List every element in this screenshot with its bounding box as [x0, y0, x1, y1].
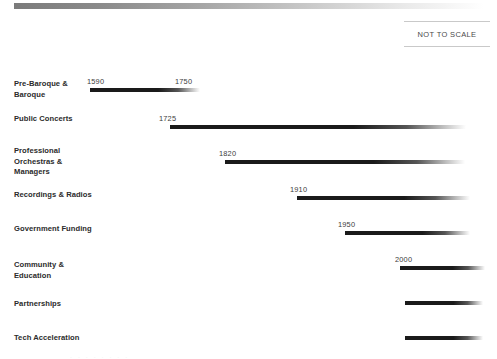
- timeline-row: Recordings & Radios1910: [0, 190, 497, 224]
- timeline-row: Community & Education2000: [0, 260, 497, 294]
- timeline-bar: [170, 125, 466, 129]
- timeline-bar: [225, 160, 465, 164]
- timeline-bar: [297, 196, 470, 200]
- start-year-label: 1725: [159, 114, 176, 123]
- timeline-row: Public Concerts1725: [0, 114, 497, 148]
- end-year-label: 1750: [175, 77, 192, 86]
- timeline-bar: [400, 266, 485, 270]
- timeline-row: Government Funding1950: [0, 224, 497, 258]
- row-label: Partnerships: [14, 299, 94, 310]
- start-year-label: 1590: [87, 77, 104, 86]
- row-label: Pre-Baroque & Baroque: [14, 79, 94, 100]
- timeline-bar: [90, 88, 200, 92]
- timeline-row: Professional Orchestras & Managers1820: [0, 146, 497, 180]
- row-label: Public Concerts: [14, 114, 94, 125]
- start-year-label: 1820: [219, 149, 236, 158]
- row-label: Tech Acceleration: [14, 333, 94, 344]
- timeline-row: Partnerships: [0, 299, 497, 333]
- timeline-page: NOT TO SCALE Pre-Baroque & Baroque159017…: [0, 0, 497, 359]
- start-year-label: 2000: [395, 255, 412, 264]
- timeline-rows: Pre-Baroque & Baroque15901750Public Conc…: [0, 0, 497, 359]
- row-label: Professional Orchestras & Managers: [14, 146, 94, 178]
- row-label: Recordings & Radios: [14, 190, 94, 201]
- timeline-row: Pre-Baroque & Baroque15901750: [0, 79, 497, 113]
- start-year-label: 1950: [338, 220, 355, 229]
- start-year-label: 1910: [290, 185, 307, 194]
- clipped-axis-artifact: . . . . . . . .: [70, 352, 330, 359]
- timeline-bar: [345, 231, 470, 235]
- timeline-bar: [405, 336, 483, 340]
- row-label: Government Funding: [14, 224, 94, 235]
- row-label: Community & Education: [14, 260, 94, 281]
- timeline-bar: [405, 301, 483, 305]
